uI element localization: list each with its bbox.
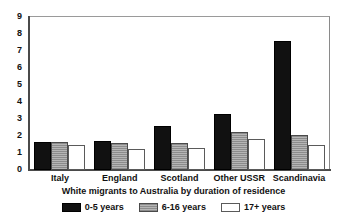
bar-chart: 0123456789 ItalyEnglandScotlandOther USS… — [0, 0, 347, 217]
bar-england-series-2 — [128, 149, 145, 170]
bar-scandinavia-series-0 — [274, 41, 291, 170]
bar-italy-series-0 — [34, 142, 51, 170]
bar-england-series-1 — [111, 143, 128, 170]
legend-item-1[interactable]: 6-16 years — [139, 202, 206, 213]
y-tick-label: 2 — [17, 131, 22, 140]
bar-scotland-series-2 — [188, 148, 205, 170]
y-tick-label: 6 — [17, 63, 22, 72]
bar-italy-series-1 — [51, 142, 68, 170]
bar-other-ussr-series-1 — [231, 132, 248, 170]
legend-label: 17+ years — [244, 202, 285, 213]
x-tick-label-italy: Italy — [51, 172, 69, 185]
bar-england-series-0 — [94, 141, 111, 170]
y-tick-label: 9 — [17, 12, 22, 21]
y-tick-label: 3 — [17, 114, 22, 123]
bar-scandinavia-series-2 — [308, 145, 325, 171]
legend-item-2[interactable]: 17+ years — [221, 202, 285, 213]
legend-label: 6-16 years — [162, 202, 206, 213]
bar-group — [34, 17, 85, 170]
y-tick-label: 7 — [17, 46, 22, 55]
bar-group — [214, 17, 265, 170]
bar-group — [94, 17, 145, 170]
legend-swatch-icon — [62, 203, 81, 212]
bar-other-ussr-series-2 — [248, 139, 265, 170]
bar-scandinavia-series-1 — [291, 135, 308, 170]
bar-group — [274, 17, 325, 170]
bar-other-ussr-series-0 — [214, 114, 231, 170]
y-tick-label: 0 — [17, 165, 22, 174]
x-tick-label-england: England — [102, 172, 138, 185]
y-axis: 0123456789 — [0, 16, 26, 170]
y-tick-label: 1 — [17, 148, 22, 157]
bar-scotland-series-0 — [154, 126, 171, 170]
bar-scotland-series-1 — [171, 143, 188, 170]
legend-swatch-icon — [139, 203, 158, 212]
chart-subtitle: White migrants to Australia by duration … — [0, 186, 347, 197]
chart-legend: 0-5 years6-16 years17+ years — [0, 200, 347, 214]
x-tick-label-scotland: Scotland — [160, 172, 198, 185]
bar-italy-series-2 — [68, 145, 85, 171]
x-tick-label-scandinavia: Scandinavia — [273, 172, 326, 185]
x-axis-labels: ItalyEnglandScotlandOther USSRScandinavi… — [28, 172, 331, 185]
legend-item-0[interactable]: 0-5 years — [62, 202, 124, 213]
y-tick-label: 4 — [17, 97, 22, 106]
plot-area — [30, 17, 329, 170]
y-tick-label: 5 — [17, 80, 22, 89]
y-tick-label: 8 — [17, 29, 22, 38]
legend-swatch-icon — [221, 203, 240, 212]
bar-group — [154, 17, 205, 170]
legend-label: 0-5 years — [85, 202, 124, 213]
x-tick-label-other-ussr: Other USSR — [214, 172, 266, 185]
